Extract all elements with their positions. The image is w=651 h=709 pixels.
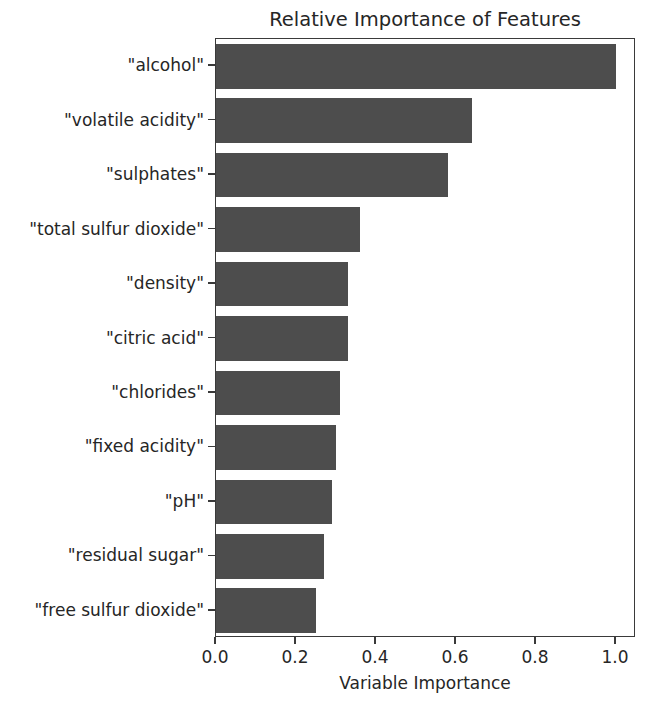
y-tick-label: "alcohol" bbox=[128, 54, 204, 76]
y-tick-mark bbox=[208, 119, 215, 121]
plot-area bbox=[215, 38, 635, 637]
x-axis-title: Variable Importance bbox=[215, 672, 635, 694]
bar-row bbox=[216, 371, 634, 416]
x-tick-label: 0.4 bbox=[345, 646, 405, 668]
y-tick-mark bbox=[208, 391, 215, 393]
x-tick-mark bbox=[614, 637, 616, 644]
y-tick-label: "density" bbox=[126, 272, 204, 294]
x-tick-label: 0.6 bbox=[425, 646, 485, 668]
y-tick-mark bbox=[208, 64, 215, 66]
bar-row bbox=[216, 316, 634, 361]
x-tick-mark bbox=[294, 637, 296, 644]
bar-row bbox=[216, 98, 634, 143]
bar-row bbox=[216, 44, 634, 89]
bar bbox=[216, 588, 316, 633]
x-tick-mark bbox=[214, 637, 216, 644]
y-tick-mark bbox=[208, 337, 215, 339]
bar bbox=[216, 371, 340, 416]
bar bbox=[216, 44, 616, 89]
y-tick-label: "residual sugar" bbox=[68, 544, 204, 566]
y-tick-mark bbox=[208, 282, 215, 284]
x-tick-label: 0.2 bbox=[265, 646, 325, 668]
bar bbox=[216, 480, 332, 525]
y-tick-mark bbox=[208, 173, 215, 175]
y-axis: "alcohol""volatile acidity""sulphates""t… bbox=[0, 38, 215, 637]
y-tick-mark bbox=[208, 228, 215, 230]
y-tick-label: "fixed acidity" bbox=[85, 435, 204, 457]
bar-row bbox=[216, 153, 634, 198]
bar bbox=[216, 316, 348, 361]
x-tick-mark bbox=[534, 637, 536, 644]
y-tick-label: "citric acid" bbox=[106, 327, 204, 349]
y-tick-mark bbox=[208, 446, 215, 448]
bar-row bbox=[216, 588, 634, 633]
bar-row bbox=[216, 425, 634, 470]
y-tick-mark bbox=[208, 609, 215, 611]
bar bbox=[216, 534, 324, 579]
x-tick-label: 0.0 bbox=[185, 646, 245, 668]
bar bbox=[216, 207, 360, 252]
x-tick-label: 0.8 bbox=[505, 646, 565, 668]
y-tick-label: "pH" bbox=[165, 490, 204, 512]
y-tick-mark bbox=[208, 555, 215, 557]
y-tick-mark bbox=[208, 500, 215, 502]
y-tick-label: "free sulfur dioxide" bbox=[35, 599, 205, 621]
bar-row bbox=[216, 480, 634, 525]
bar-row bbox=[216, 207, 634, 252]
x-tick-mark bbox=[454, 637, 456, 644]
y-tick-label: "volatile acidity" bbox=[64, 109, 204, 131]
bar-row bbox=[216, 262, 634, 307]
bar bbox=[216, 153, 448, 198]
y-tick-label: "chlorides" bbox=[111, 381, 204, 403]
bars-layer bbox=[216, 39, 634, 636]
bar bbox=[216, 425, 336, 470]
bar-row bbox=[216, 534, 634, 579]
x-tick-mark bbox=[374, 637, 376, 644]
x-tick-label: 1.0 bbox=[585, 646, 645, 668]
y-tick-label: "total sulfur dioxide" bbox=[29, 218, 204, 240]
y-tick-label: "sulphates" bbox=[106, 163, 204, 185]
chart-figure: Relative Importance of Features "alcohol… bbox=[0, 0, 651, 709]
bar bbox=[216, 98, 472, 143]
chart-title: Relative Importance of Features bbox=[215, 8, 635, 32]
bar bbox=[216, 262, 348, 307]
